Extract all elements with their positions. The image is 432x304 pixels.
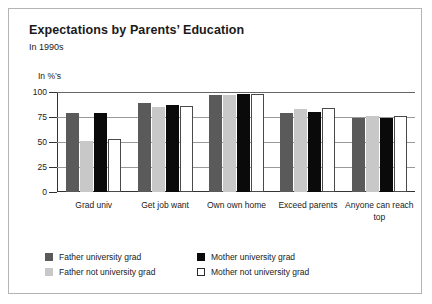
x-axis-category-label: Get job want [129,197,200,231]
legend-item: Mother university grad [197,252,375,262]
legend-label: Father university grad [59,252,141,262]
y-axis-tick-label: 75 [7,112,47,122]
bar [209,95,222,192]
bar-group [129,92,200,192]
legend-swatch-icon [197,268,205,276]
bar [294,109,307,192]
bar [66,113,79,192]
bar [366,116,379,192]
x-axis-category-label: Grad univ [58,197,129,231]
legend-item: Father university grad [45,252,197,262]
y-axis-label: In %’s [38,71,61,81]
y-axis-tick-label: 25 [7,162,47,172]
plot-area: 0255075100 [49,92,415,192]
y-axis-tick-mark [49,142,57,143]
bar [251,94,264,192]
legend-item: Mother not university grad [197,267,375,277]
bar [94,113,107,192]
legend-label: Father not university grad [59,267,155,277]
y-axis-tick-mark [49,192,57,193]
bar-groups [58,92,415,192]
bar [352,118,365,192]
bar [152,107,165,192]
y-axis-tick-label: 0 [7,187,47,197]
bar [223,95,236,192]
bar [80,141,93,192]
bar [394,116,407,192]
bar [322,108,335,192]
bar [138,103,151,192]
y-axis-tick-label: 50 [7,137,47,147]
x-axis-category-label: Own own home [201,197,272,231]
bar [180,106,193,192]
y-axis-tick-mark [49,92,57,93]
bar-group [344,92,415,192]
x-axis-categories: Grad univGet job wantOwn own homeExceed … [58,197,415,231]
bar-group [272,92,343,192]
chart-panel: Expectations by Parents’ Education In 19… [8,8,422,294]
bar [280,113,293,192]
y-axis-tick-label: 100 [7,87,47,97]
bar [108,139,121,192]
bar [237,94,250,192]
y-axis-tick-mark [49,167,57,168]
page-title: Expectations by Parents’ Education [29,23,244,37]
legend-swatch-icon [45,253,53,261]
chart-legend: Father university gradMother university … [45,252,375,277]
bar [380,118,393,192]
x-axis-category-label: Exceed parents [272,197,343,231]
x-axis-category-label: Anyone can reach top [344,197,415,231]
legend-item: Father not university grad [45,267,197,277]
legend-label: Mother university grad [211,252,295,262]
bar-group [201,92,272,192]
legend-swatch-icon [197,253,205,261]
bar-group [58,92,129,192]
y-axis-tick-mark [49,117,57,118]
bar [308,112,321,192]
legend-swatch-icon [45,268,53,276]
chart-subtitle: In 1990s [29,42,64,52]
bar [166,105,179,192]
legend-label: Mother not university grad [211,267,309,277]
